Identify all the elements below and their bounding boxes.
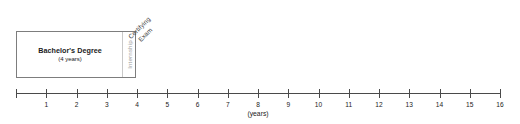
axis-tick [107,89,108,98]
axis-tick-label: 11 [339,101,359,108]
axis-tick [77,89,78,98]
axis-tick [349,89,350,98]
axis-tick-label: 3 [97,101,117,108]
axis-tick-label: 1 [36,101,56,108]
axis-tick [409,89,410,98]
axis-tick [319,89,320,98]
degree-block-text: Bachelor's Degree (4 years) [17,32,123,77]
axis-tick-label: 13 [399,101,419,108]
axis-tick [46,89,47,98]
axis-tick [470,89,471,98]
axis-tick-label: 6 [188,101,208,108]
axis-tick-label: 16 [490,101,510,108]
axis-tick-label: 15 [460,101,480,108]
axis-tick [228,89,229,98]
axis-tick-label: 9 [278,101,298,108]
axis-tick [379,89,380,98]
axis-tick-label: 14 [430,101,450,108]
career-timeline-diagram: Bachelor's Degree (4 years) Internship C… [0,0,520,124]
axis-tick [258,89,259,98]
internship-label: Internship [126,40,133,69]
axis-tick-label: 7 [218,101,238,108]
axis-tick-label: 10 [309,101,329,108]
axis-tick [16,89,17,98]
axis-tick [198,89,199,98]
axis-tick [500,89,501,98]
axis-tick-label: 5 [157,101,177,108]
axis-tick [440,89,441,98]
degree-block-duration: (4 years) [58,56,82,64]
axis-tick [288,89,289,98]
axis-tick [167,89,168,98]
axis-tick-label: 8 [248,101,268,108]
axis-tick-label: 12 [369,101,389,108]
bachelors-degree-block: Bachelor's Degree (4 years) Internship [16,31,136,78]
axis-caption: (years) [228,110,288,117]
degree-block-title: Bachelor's Degree [38,46,102,55]
axis-tick [137,89,138,98]
axis-tick-label: 4 [127,101,147,108]
axis-tick-label: 2 [67,101,87,108]
